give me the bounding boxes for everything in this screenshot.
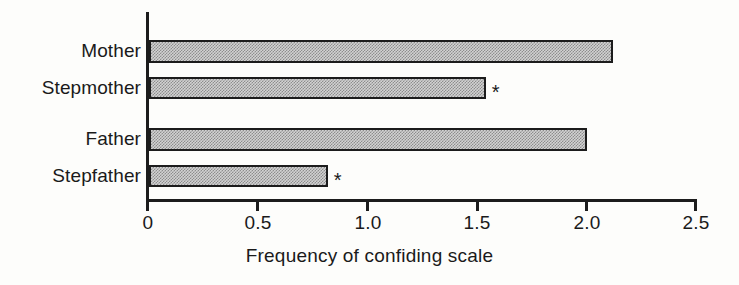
- significance-asterisk-stepmother: *: [492, 82, 500, 102]
- x-axis-tick: [585, 201, 588, 211]
- x-axis-line: [146, 199, 697, 202]
- x-axis-tick: [366, 201, 369, 211]
- x-tick-label-0: 0: [143, 212, 154, 234]
- bar-father: [149, 128, 587, 151]
- bar-stepfather: [149, 165, 328, 187]
- x-tick-label-1-0: 1.0: [354, 212, 381, 234]
- category-label-mother: Mother: [0, 40, 141, 62]
- x-axis-tick: [476, 201, 479, 211]
- category-label-father: Father: [0, 128, 141, 150]
- category-label-stepfather: Stepfather: [0, 165, 141, 187]
- x-axis-tick: [146, 201, 149, 211]
- category-label-stepmother: Stepmother: [0, 77, 141, 99]
- x-axis-tick: [694, 201, 697, 211]
- significance-asterisk-stepfather: *: [334, 170, 342, 190]
- x-axis-title: Frequency of confiding scale: [0, 244, 739, 267]
- x-axis-tick: [256, 201, 259, 211]
- bar-mother: [149, 40, 613, 63]
- x-tick-label-1-5: 1.5: [463, 212, 490, 234]
- x-tick-label-2-5: 2.5: [682, 212, 709, 234]
- bar-stepmother: [149, 77, 486, 99]
- x-tick-label-2-0: 2.0: [573, 212, 600, 234]
- x-tick-label-0-5: 0.5: [244, 212, 271, 234]
- bar-chart: 0 0.5 1.0 1.5 2.0 2.5 Mother Stepmother …: [0, 0, 739, 285]
